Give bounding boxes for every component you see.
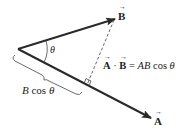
- formula-a: A: [103, 60, 111, 71]
- dot-product-formula: A · B = AB cos θ: [103, 60, 175, 71]
- formula-dot: ·: [113, 60, 117, 71]
- formula-b: B: [119, 60, 126, 71]
- vector-b-label: B: [118, 10, 125, 22]
- formula-ab: AB: [138, 60, 151, 71]
- vector-a-label: A: [154, 115, 162, 127]
- projection-cos: cos: [31, 84, 46, 96]
- angle-theta-label: θ: [50, 44, 55, 55]
- projection-theta: θ: [49, 84, 54, 96]
- projection-label: B cos θ: [22, 84, 54, 96]
- angle-arc: [44, 41, 47, 63]
- formula-cos: cos: [153, 60, 167, 71]
- formula-theta: θ: [170, 60, 175, 71]
- formula-equals: =: [129, 60, 135, 71]
- vector-a-symbol: A: [154, 115, 162, 127]
- diagram-canvas: B A θ B cos θ A · B = AB cos θ: [0, 0, 194, 132]
- vector-b-symbol: B: [118, 10, 125, 22]
- projection-b: B: [22, 84, 29, 96]
- vector-b-arrow: [18, 19, 115, 49]
